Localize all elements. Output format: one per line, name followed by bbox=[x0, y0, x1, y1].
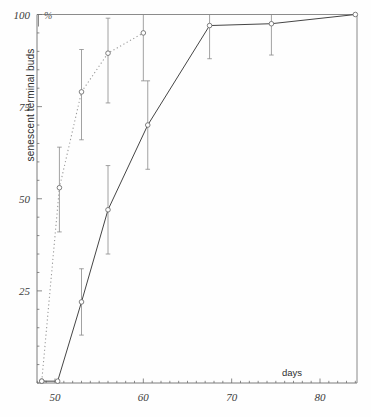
error-bars-layer bbox=[57, 15, 274, 336]
data-point-solid-series-5 bbox=[207, 23, 212, 28]
x-tick-label-80: 80 bbox=[315, 391, 327, 403]
x-axis-title: days bbox=[282, 367, 302, 378]
data-markers-layer bbox=[39, 12, 357, 383]
y-tick-label-100: 100 bbox=[14, 9, 31, 21]
data-point-dotted-series-1 bbox=[57, 185, 62, 190]
data-point-solid-series-0 bbox=[39, 379, 44, 384]
y-tick-label-25: 25 bbox=[19, 285, 31, 297]
x-tick-label-50: 50 bbox=[50, 391, 62, 403]
data-point-solid-series-7 bbox=[353, 12, 358, 17]
chart-figure: 25507510050607080%dayssenescent terminal… bbox=[0, 0, 371, 417]
data-point-dotted-series-3 bbox=[106, 51, 111, 56]
x-tick-label-60: 60 bbox=[138, 391, 150, 403]
line-chart-plot: 25507510050607080%dayssenescent terminal… bbox=[0, 0, 371, 417]
y-tick-label-50: 50 bbox=[19, 193, 31, 205]
data-point-dotted-series-4 bbox=[141, 31, 146, 36]
data-point-dotted-series-2 bbox=[79, 90, 84, 95]
data-point-solid-series-3 bbox=[106, 208, 111, 213]
y-axis-unit-symbol: % bbox=[44, 10, 52, 21]
y-axis-title: senescent terminal buds bbox=[25, 49, 36, 162]
series-line-solid-series bbox=[42, 15, 356, 382]
axes-layer bbox=[37, 15, 357, 384]
data-point-solid-series-6 bbox=[269, 21, 274, 26]
data-series-layer bbox=[42, 15, 356, 382]
x-tick-label-70: 70 bbox=[226, 391, 238, 403]
data-point-solid-series-2 bbox=[79, 300, 84, 305]
data-point-solid-series-1 bbox=[55, 379, 60, 384]
axis-labels-layer: 25507510050607080%dayssenescent terminal… bbox=[14, 9, 327, 404]
series-line-dotted-series bbox=[42, 33, 144, 381]
data-point-solid-series-4 bbox=[145, 123, 150, 128]
